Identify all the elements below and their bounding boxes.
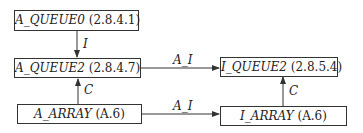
node-name: I_QUEUE2: [221, 60, 287, 74]
node-i-queue2: I_QUEUE2 (2.8.5.4): [220, 57, 338, 77]
edge-label-i: I: [83, 37, 88, 51]
edge-label-a-i-bottom: A_I: [173, 99, 192, 113]
edge-label-a-i-top: A_I: [173, 53, 192, 67]
edge-label-c-left: C: [84, 83, 93, 97]
edge-label-c-right: C: [289, 84, 298, 98]
node-name: A_QUEUE2: [15, 61, 85, 75]
node-name: A_ARRAY: [34, 107, 92, 121]
node-a-queue2: A_QUEUE2 (2.8.4.7): [14, 58, 141, 78]
node-name: I_ARRAY: [240, 109, 294, 123]
node-ref: (2.8.5.4): [291, 60, 342, 74]
node-ref: (A.6): [95, 107, 124, 121]
node-ref: (2.8.4.7): [89, 61, 140, 75]
node-a-array: A_ARRAY (A.6): [17, 104, 142, 124]
node-name: A_QUEUE0: [15, 13, 85, 27]
node-i-array: I_ARRAY (A.6): [220, 106, 347, 126]
node-ref: (A.6): [297, 109, 326, 123]
node-a-queue0: A_QUEUE0 (2.8.4.1): [14, 10, 139, 31]
node-ref: (2.8.4.1): [89, 13, 140, 27]
